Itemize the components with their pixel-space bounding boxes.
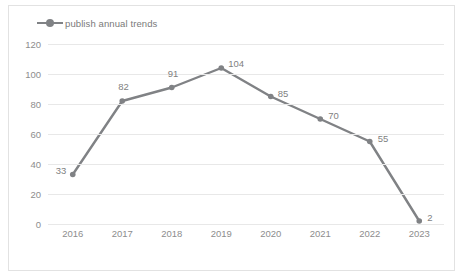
legend-item-label: publish annual trends [63,18,157,29]
x-axis: 20162017201820192020202120222023 [48,228,444,244]
x-axis-tick-label: 2016 [62,228,83,239]
data-point-marker [70,172,76,178]
gridline [48,74,444,75]
x-axis-tick-label: 2018 [161,228,182,239]
chart-container: publish annual trends 020406080100120 33… [8,5,455,271]
data-point-marker [317,116,323,122]
y-axis-tick-label: 120 [25,39,41,50]
data-point-label: 82 [118,81,129,92]
y-axis-tick-label: 80 [30,99,41,110]
gridline [48,104,444,105]
data-point-label: 91 [168,68,179,79]
data-point-label: 2 [427,212,432,223]
x-axis-tick-label: 2023 [409,228,430,239]
data-point-label: 70 [328,110,339,121]
data-point-marker [169,85,175,91]
data-point-label: 85 [278,88,289,99]
data-point-marker [268,94,274,100]
y-axis-tick-label: 40 [30,159,41,170]
y-axis-tick-label: 0 [36,219,41,230]
data-point-label: 104 [228,58,244,69]
gridline [48,44,444,45]
x-axis-tick-label: 2020 [260,228,281,239]
legend-line-marker-icon [37,17,63,29]
gridline [48,164,444,165]
data-point-marker [367,139,373,145]
gridline [48,224,444,225]
data-point-marker [416,218,422,224]
x-axis-tick-label: 2019 [211,228,232,239]
x-axis-tick-label: 2017 [112,228,133,239]
x-axis-tick-label: 2022 [359,228,380,239]
gridline [48,194,444,195]
data-point-marker [119,98,125,104]
y-axis-tick-label: 60 [30,129,41,140]
data-point-label: 55 [378,133,389,144]
data-point-marker [218,65,224,71]
plot-area: 3382911048570552 [48,44,444,224]
y-axis-tick-label: 100 [25,69,41,80]
y-axis: 020406080100120 [9,44,45,224]
y-axis-tick-label: 20 [30,189,41,200]
x-axis-tick-label: 2021 [310,228,331,239]
chart-legend: publish annual trends [37,15,157,31]
data-point-label: 33 [56,165,67,176]
